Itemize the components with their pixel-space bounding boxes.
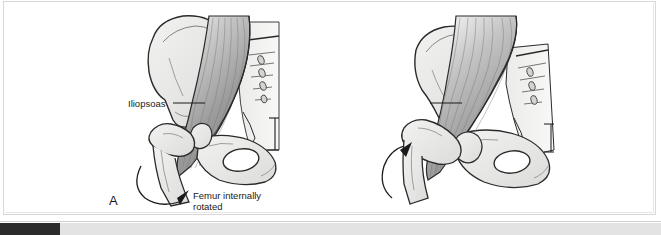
footer-bar	[0, 223, 661, 235]
femur-b	[402, 120, 482, 204]
panel-a: Iliopsoas Femur internally rotated A	[3, 0, 333, 215]
caption-a-line1: Femur internally	[193, 190, 261, 201]
footer-divider	[0, 221, 661, 222]
footer-tab-block	[0, 223, 60, 235]
panel-letter-a: A	[109, 193, 118, 208]
panel-a-illustration	[3, 0, 333, 215]
iliopsoas-label-a: Iliopsoas	[128, 98, 166, 109]
panel-b-illustration	[330, 0, 660, 215]
panel-b: Iliopsoas Femur externally rotated B	[330, 0, 660, 215]
figure-root: Iliopsoas Femur internally rotated A	[0, 0, 661, 235]
caption-a: Femur internally rotated	[193, 190, 261, 212]
caption-a-line2: rotated	[193, 201, 223, 212]
